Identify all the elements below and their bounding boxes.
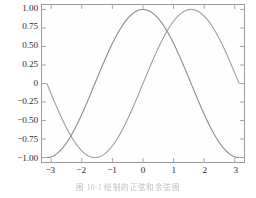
y-tick-label: 1.00 — [2, 4, 38, 13]
x-tick-label: 0 — [131, 165, 155, 176]
x-tick-label: −3 — [38, 165, 62, 176]
x-tick-label: 1 — [162, 165, 186, 176]
figure-container: 1.000.750.500.250−0.25−0.50−0.75−1.00 −3… — [0, 0, 256, 198]
y-tick-label: 0.50 — [2, 41, 38, 50]
series-line-2 — [47, 9, 239, 157]
y-tick-label: −0.25 — [2, 98, 38, 107]
x-tick-label: −2 — [69, 165, 93, 176]
y-tick-label: −1.00 — [2, 154, 38, 163]
x-axis-tick-labels: −3−2−10123 — [41, 165, 245, 179]
y-tick-label: 0 — [2, 79, 38, 88]
x-tick-label: −1 — [100, 165, 124, 176]
plot-area — [41, 4, 245, 163]
y-tick-label: 0.25 — [2, 60, 38, 69]
y-tick-label: −0.50 — [2, 116, 38, 125]
y-axis-tick-labels: 1.000.750.500.250−0.25−0.50−0.75−1.00 — [0, 4, 38, 163]
y-tick-label: −0.75 — [2, 135, 38, 144]
figure-caption: 图 10-1 绘制的正弦和余弦图 — [0, 183, 256, 192]
y-tick-label: 0.75 — [2, 23, 38, 32]
plot-svg — [42, 5, 244, 162]
x-tick-label: 3 — [224, 165, 248, 176]
x-tick-label: 2 — [193, 165, 217, 176]
